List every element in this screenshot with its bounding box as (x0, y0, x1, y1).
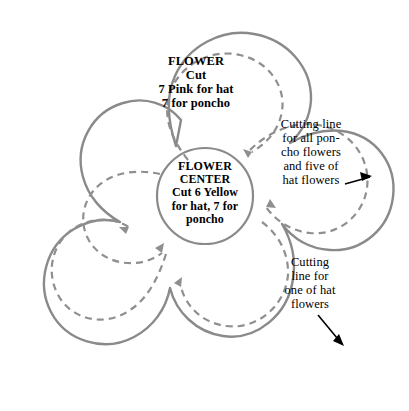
annotation-cutting-line-hat: Cutting line for one of hat flowers (262, 255, 358, 311)
petal-top-label: FLOWER Cut 7 Pink for hat 7 for poncho (116, 54, 276, 110)
flower-center-label: FLOWER CENTER Cut 6 Yellow for hat, 7 fo… (155, 160, 255, 226)
leader-arrow-lower-right (318, 315, 344, 346)
flower-pattern-diagram: FLOWER Cut 7 Pink for hat 7 for poncho F… (0, 0, 409, 411)
annotation-cutting-line-poncho: Cutting line for all pon- cho flowers an… (258, 117, 364, 187)
